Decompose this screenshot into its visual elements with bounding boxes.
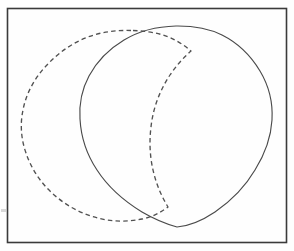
solid-circle-shape [80, 26, 272, 227]
circles-diagram [0, 0, 294, 251]
outer-frame-border [8, 9, 287, 243]
figure-canvas [0, 0, 294, 251]
dashed-circle-shape [21, 30, 191, 221]
scan-artifact [1, 209, 6, 212]
